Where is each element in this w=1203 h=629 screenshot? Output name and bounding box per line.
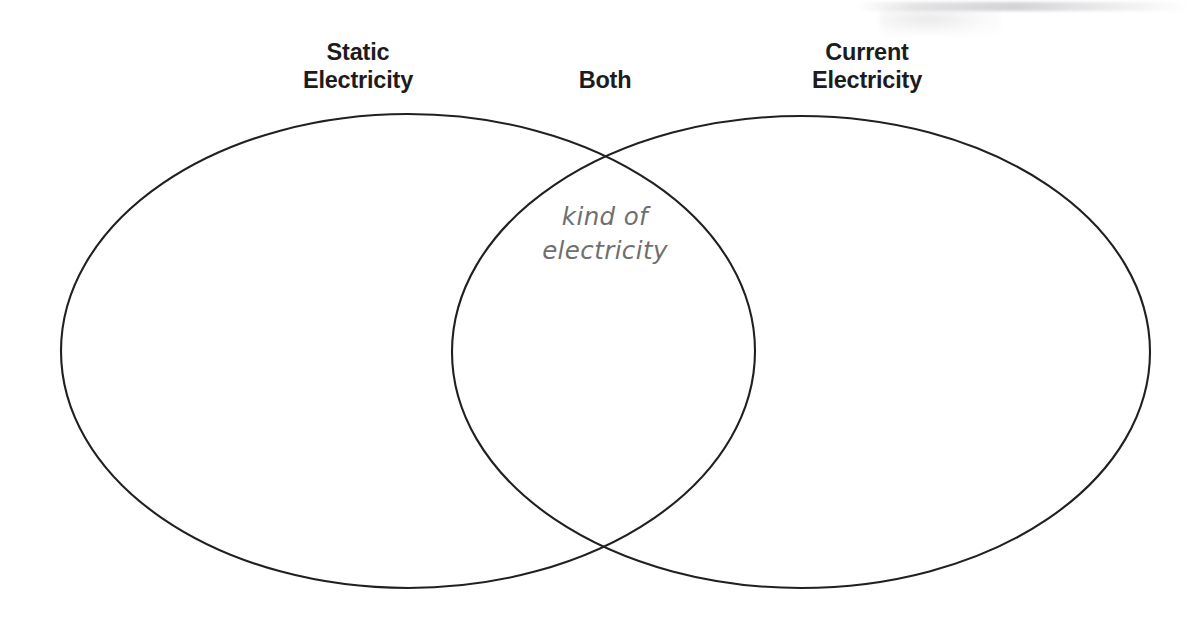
venn-diagram-canvas: Static Electricity Both Current Electric…: [0, 0, 1203, 629]
venn-label-left: Static Electricity: [218, 38, 498, 94]
venn-circle-right[interactable]: [452, 116, 1150, 588]
venn-intersection-note: kind of electricity: [470, 200, 740, 268]
venn-diagram-svg: [0, 0, 1203, 629]
venn-label-right: Current Electricity: [727, 38, 1007, 94]
venn-circle-left[interactable]: [61, 114, 755, 588]
venn-label-intersection: Both: [525, 66, 685, 94]
